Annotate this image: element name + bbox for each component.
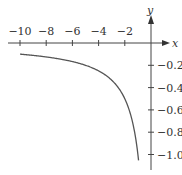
y-tick-label: −0.2 xyxy=(157,59,182,72)
x-tick-label: −10 xyxy=(8,25,31,38)
y-tick-label: −0.4 xyxy=(157,82,182,95)
y-tick-label: −0.6 xyxy=(157,104,182,117)
y-tick-label: −1.0 xyxy=(157,149,182,162)
x-axis-arrow-icon xyxy=(162,40,170,46)
x-tick-label: −4 xyxy=(90,25,106,38)
curve-series xyxy=(20,54,139,160)
y-ticks: −0.2−0.4−0.6−0.8−1.0 xyxy=(148,59,182,161)
y-tick-label: −0.8 xyxy=(157,126,182,139)
x-tick-label: −8 xyxy=(38,25,54,38)
x-tick-label: −2 xyxy=(117,25,133,38)
x-axis-label: x xyxy=(172,37,179,50)
x-tick-label: −6 xyxy=(64,25,80,38)
y-axis-label: y xyxy=(146,4,154,17)
function-plot: x y −10−8−6−4−2 −0.2−0.4−0.6−0.8−1.0 xyxy=(0,0,182,175)
